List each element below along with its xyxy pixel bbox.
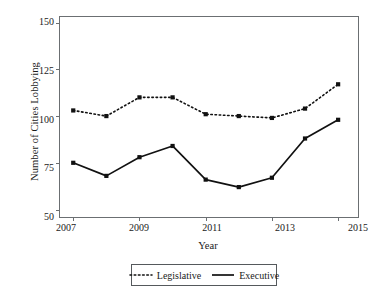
legend-item-legislative: Legislative [129, 270, 201, 281]
series-executive [71, 118, 340, 189]
data-point-legislative-2013 [270, 116, 274, 120]
data-point-executive-2011 [204, 178, 208, 182]
chart-legend: Legislative Executive [131, 264, 277, 286]
legend-swatch-solid-icon [211, 270, 235, 280]
data-point-executive-2012 [237, 185, 241, 189]
legend-item-executive: Executive [211, 270, 279, 281]
data-point-executive-2014 [303, 136, 307, 140]
series-line-executive [73, 120, 338, 187]
data-point-legislative-2009 [137, 95, 141, 99]
legend-label-legislative: Legislative [157, 270, 201, 281]
data-point-legislative-2012 [237, 114, 241, 118]
data-point-legislative-2010 [170, 95, 174, 99]
data-point-executive-2007 [71, 161, 75, 165]
series-legislative [71, 82, 340, 120]
data-point-executive-2010 [170, 144, 174, 148]
data-point-executive-2015 [336, 118, 340, 122]
legend-label-executive: Executive [239, 270, 279, 281]
plot-area [0, 0, 375, 296]
data-point-executive-2013 [270, 176, 274, 180]
data-point-executive-2009 [137, 155, 141, 159]
data-point-legislative-2007 [71, 108, 75, 112]
data-point-legislative-2011 [204, 112, 208, 116]
data-point-legislative-2008 [104, 114, 108, 118]
data-point-legislative-2014 [303, 106, 307, 110]
legend-swatch-dotted-icon [129, 270, 153, 280]
data-point-executive-2008 [104, 174, 108, 178]
data-point-legislative-2015 [336, 82, 340, 86]
chart-figure: Number of Cities Lobbying Year 150 125 1… [0, 0, 375, 296]
series-layer [71, 82, 340, 189]
